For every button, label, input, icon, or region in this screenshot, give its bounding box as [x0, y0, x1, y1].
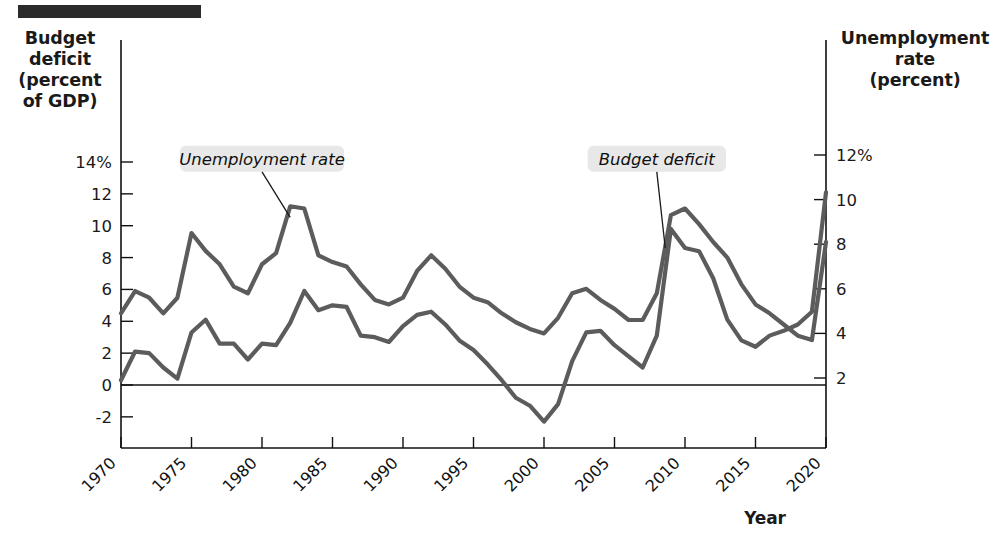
x-tick-label: 2005	[571, 453, 613, 495]
series-line-unemployment-rate	[121, 206, 826, 340]
left-tick-label: 2	[102, 344, 113, 363]
x-tick-label: 2015	[712, 453, 754, 495]
callout-label: Unemployment rate	[179, 150, 345, 169]
left-tick-label: 12	[91, 185, 112, 204]
right-tick-label: 12%	[836, 146, 873, 165]
right-tick-label: 8	[836, 235, 847, 254]
callout-leader-line	[262, 172, 290, 218]
x-tick-label: 1970	[78, 453, 120, 495]
right-tick-label: 4	[836, 324, 847, 343]
plot-area: -202468101214% 24681012% 197019751980198…	[0, 0, 996, 540]
left-tick-label: 8	[102, 249, 113, 268]
left-tick-label: 6	[102, 280, 113, 299]
callout-label: Budget deficit	[599, 150, 716, 169]
right-tick-label: 10	[836, 191, 857, 210]
x-axis-ticks: 1970197519801985199019952000200520102015…	[78, 437, 826, 496]
x-tick-label: 1995	[430, 453, 472, 495]
x-tick-label: 2010	[642, 453, 684, 495]
right-tick-label: 6	[836, 280, 847, 299]
left-tick-label: 4	[102, 312, 113, 331]
x-tick-label: 1990	[360, 453, 402, 495]
x-tick-label: 1980	[219, 453, 261, 495]
series-line-budget-deficit	[121, 192, 826, 421]
callout-unemployment-rate: Unemployment rate	[179, 146, 345, 218]
left-tick-label: -2	[96, 408, 112, 427]
right-tick-label: 2	[836, 369, 847, 388]
series-layer	[121, 192, 826, 421]
left-tick-label: 0	[102, 376, 113, 395]
left-tick-label: 10	[91, 217, 112, 236]
annotation-layer: Unemployment rateBudget deficit	[179, 146, 726, 248]
callout-leader-line	[657, 172, 665, 248]
x-tick-label: 1975	[148, 453, 190, 495]
x-tick-label: 2000	[501, 453, 543, 495]
x-tick-label: 2020	[783, 453, 825, 495]
x-tick-label: 1985	[289, 453, 331, 495]
left-tick-label: 14%	[75, 153, 112, 172]
chart-figure: Budget deficit (percent of GDP) Unemploy…	[0, 0, 996, 540]
left-axis-ticks: -202468101214%	[75, 153, 133, 427]
